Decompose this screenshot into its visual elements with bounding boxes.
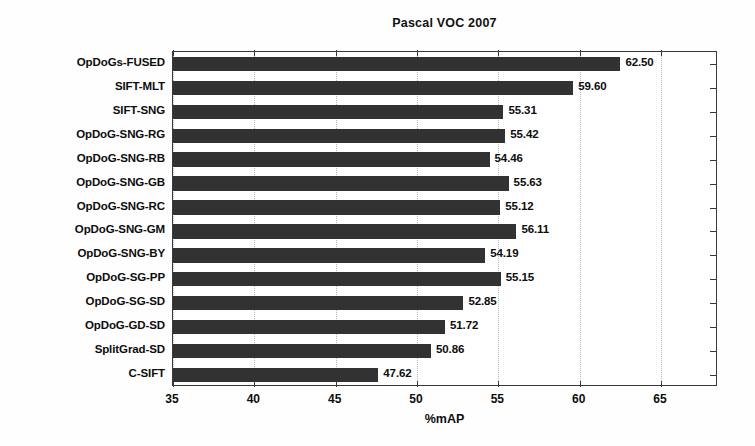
value-label: 55.42	[510, 128, 538, 140]
bar	[173, 248, 485, 262]
value-label: 55.31	[508, 104, 536, 116]
category-label: OpDoG-SNG-BY	[77, 247, 165, 259]
x-tick-label: 55	[491, 392, 504, 406]
x-tick-top	[498, 50, 499, 56]
category-label: OpDoG-SG-SD	[86, 295, 165, 307]
bar-row: OpDoG-SG-SD52.85	[173, 291, 716, 315]
value-label: 50.86	[436, 343, 464, 355]
y-tick	[710, 231, 716, 232]
x-tick	[417, 381, 418, 387]
x-tick	[254, 381, 255, 387]
value-label: 47.62	[383, 367, 411, 379]
bar	[173, 81, 573, 95]
bar-row: SIFT-SNG55.31	[173, 100, 716, 124]
x-tick	[173, 381, 174, 387]
x-tick-label: 45	[328, 392, 341, 406]
value-label: 55.12	[505, 200, 533, 212]
y-tick	[710, 327, 716, 328]
x-tick-label: 40	[247, 392, 260, 406]
bar-row: OpDoG-SNG-RG55.42	[173, 124, 716, 148]
y-tick	[710, 88, 716, 89]
x-tick-label: 65	[653, 392, 666, 406]
value-label: 54.46	[495, 152, 523, 164]
category-label: OpDoG-SNG-GM	[75, 223, 165, 235]
x-tick-label: 50	[409, 392, 422, 406]
x-axis-title: %mAP	[172, 412, 717, 426]
value-label: 54.19	[490, 247, 518, 259]
category-label: OpDoG-SG-PP	[86, 271, 165, 283]
category-label: SIFT-MLT	[115, 80, 165, 92]
bar-row: OpDoG-SG-PP55.15	[173, 267, 716, 291]
category-label: C-SIFT	[129, 367, 165, 379]
y-tick	[710, 160, 716, 161]
x-tick	[580, 381, 581, 387]
value-label: 55.15	[506, 271, 534, 283]
bar	[173, 57, 620, 71]
bar-row: SplitGrad-SD50.86	[173, 339, 716, 363]
value-label: 52.85	[468, 295, 496, 307]
x-tick-top	[417, 50, 418, 56]
category-label: SIFT-SNG	[113, 104, 165, 116]
chart-title: Pascal VOC 2007	[172, 16, 717, 30]
bar	[173, 272, 501, 286]
x-tick-top	[173, 50, 174, 56]
y-tick	[710, 351, 716, 352]
y-tick	[710, 64, 716, 65]
bar	[173, 344, 431, 358]
bar-row: OpDoG-GD-SD51.72	[173, 315, 716, 339]
x-tick-label: 35	[165, 392, 178, 406]
category-label: OpDoG-SNG-RB	[77, 152, 165, 164]
category-label: OpDoGs-FUSED	[77, 56, 165, 68]
bar-row: OpDoG-SNG-RC55.12	[173, 196, 716, 220]
x-tick	[336, 381, 337, 387]
plot-area: OpDoGs-FUSED62.50SIFT-MLT59.60SIFT-SNG55…	[172, 51, 717, 386]
category-label: OpDoG-SNG-RC	[77, 200, 165, 212]
x-tick-top	[336, 50, 337, 56]
bar	[173, 320, 445, 334]
category-label: SplitGrad-SD	[95, 343, 165, 355]
y-tick	[710, 279, 716, 280]
y-tick	[710, 303, 716, 304]
y-tick	[710, 208, 716, 209]
bar	[173, 129, 505, 143]
y-tick	[710, 112, 716, 113]
x-tick-label: 60	[572, 392, 585, 406]
bar	[173, 368, 378, 382]
y-tick	[710, 184, 716, 185]
x-tick-top	[661, 50, 662, 56]
x-tick-top	[580, 50, 581, 56]
x-tick	[498, 381, 499, 387]
bar-row: OpDoG-SNG-GB55.63	[173, 172, 716, 196]
y-tick	[710, 375, 716, 376]
bar-row: SIFT-MLT59.60	[173, 76, 716, 100]
bar	[173, 224, 516, 238]
value-label: 55.63	[514, 176, 542, 188]
value-label: 51.72	[450, 319, 478, 331]
x-tick	[661, 381, 662, 387]
bar	[173, 296, 463, 310]
category-label: OpDoG-SNG-RG	[76, 128, 165, 140]
category-label: OpDoG-SNG-GB	[76, 176, 165, 188]
y-tick	[710, 255, 716, 256]
bar-row: OpDoG-SNG-GM56.11	[173, 220, 716, 244]
bar	[173, 105, 503, 119]
x-tick-top	[254, 50, 255, 56]
bar	[173, 152, 490, 166]
value-label: 56.11	[521, 223, 549, 235]
bar	[173, 176, 509, 190]
bar	[173, 200, 500, 214]
value-label: 62.50	[625, 56, 653, 68]
y-tick	[710, 136, 716, 137]
bar-row: OpDoG-SNG-RB54.46	[173, 148, 716, 172]
category-label: OpDoG-GD-SD	[85, 319, 165, 331]
value-label: 59.60	[578, 80, 606, 92]
chart-figure: Pascal VOC 2007 OpDoGs-FUSED62.50SIFT-ML…	[0, 0, 755, 446]
bar-row: OpDoG-SNG-BY54.19	[173, 243, 716, 267]
